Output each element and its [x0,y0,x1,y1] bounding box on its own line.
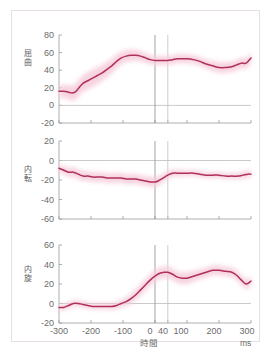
y-tick-label: 20 [34,280,54,289]
y-tick-label: 0 [34,101,54,110]
y-tick-label: 60 [34,49,54,58]
y-tick-label: 60 [34,241,54,250]
y-tick-label: 0 [34,157,54,166]
y-axis-label-char: 内 [22,265,34,274]
y-axis-label-char: 曲 [22,58,34,67]
panel-flexion: 屈 曲 80 60 40 20 0 -20 [12,11,261,129]
y-tick-label: 20 [34,137,54,146]
plot-area-flexion [59,35,251,123]
x-tick-label: 300 [234,327,260,336]
y-tick-label: -40 [30,196,54,205]
figure-frame: 屈 曲 80 60 40 20 0 -20 内 転 20 0 -20 -40 -… [11,10,260,342]
y-tick-label: 20 [34,84,54,93]
y-tick-label: -60 [30,215,54,224]
x-tick-label: 100 [168,327,194,336]
x-axis-label: 時間 [140,339,158,348]
x-tick-label: 200 [201,327,227,336]
y-axis-label-char: 旋 [22,274,34,283]
y-tick-label: 40 [34,261,54,270]
plot-area-internal-rotation [59,245,251,323]
x-tick-label: -300 [44,327,74,336]
panel-internal-rotation: 内 旋 60 40 20 0 -20 -300 -200 -100 0 40 1… [12,227,261,343]
x-tick-label: -200 [76,327,106,336]
y-tick-label: 0 [34,300,54,309]
y-tick-label: 80 [34,31,54,40]
panel-adduction: 内 転 20 0 -20 -40 -60 [12,123,261,233]
y-axis-label-char: 内 [22,165,34,174]
x-axis-unit-label: ms [240,339,251,348]
y-axis-label-internal-rotation: 内 旋 [22,265,34,283]
y-axis-label-char: 屈 [22,49,34,58]
plot-area-adduction [59,141,251,219]
y-tick-label: 40 [34,66,54,75]
x-tick-label: -100 [108,327,138,336]
y-tick-label: -20 [30,176,54,185]
y-axis-label-flexion: 屈 曲 [22,49,34,67]
